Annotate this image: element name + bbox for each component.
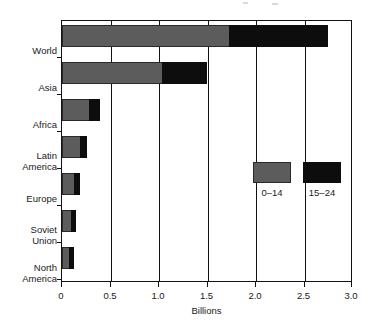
x-tick-mark <box>207 282 208 287</box>
bar-segment-young-world <box>62 25 229 47</box>
bar-segment-young-latin-america <box>62 136 80 158</box>
y-tick-mark <box>57 131 62 132</box>
x-tick-mark <box>255 282 256 287</box>
x-axis-title: Billions <box>61 305 352 316</box>
y-tick-label-asia: Asia <box>1 82 57 93</box>
bar-segment-older-world <box>229 25 328 47</box>
legend: 0–14 15–24 <box>253 162 341 208</box>
y-axis-labels: World Asia Africa Latin America Europe S… <box>0 20 57 282</box>
legend-entry-young: 0–14 <box>253 162 291 198</box>
x-tick-mark <box>351 282 352 287</box>
bar-segment-older-north-america <box>69 247 74 269</box>
legend-label-older: 15–24 <box>303 187 341 198</box>
x-tick-mark <box>158 282 159 287</box>
bar-segment-young-soviet-union <box>62 210 71 232</box>
y-tick-mark <box>57 57 62 58</box>
x-tick-mark <box>304 282 305 287</box>
bar-segment-older-asia <box>162 62 207 84</box>
gridline-0.5 <box>111 21 112 281</box>
scan-artifact <box>272 3 278 5</box>
y-tick-label-north-america: North America <box>1 262 57 284</box>
y-tick-mark <box>57 279 62 280</box>
plot-area: 0–14 15–24 <box>61 20 352 282</box>
bar-segment-older-africa <box>89 99 100 121</box>
x-tick-mark <box>110 282 111 287</box>
y-tick-label-soviet-union: Soviet Union <box>1 224 57 246</box>
y-tick-mark <box>57 94 62 95</box>
bar-segment-older-europe <box>74 173 80 195</box>
horizontal-stacked-bar-chart: World Asia Africa Latin America Europe S… <box>0 0 372 329</box>
bar-segment-young-europe <box>62 173 74 195</box>
x-tick-label-2.0: 2.0 <box>238 290 272 301</box>
bar-segment-young-north-america <box>62 247 69 269</box>
y-tick-mark <box>57 168 62 169</box>
bar-segment-older-latin-america <box>80 136 87 158</box>
gridline-1.5 <box>208 21 209 281</box>
x-tick-label-1.0: 1.0 <box>141 290 175 301</box>
gridline-1.0 <box>159 21 160 281</box>
y-tick-mark <box>57 242 62 243</box>
legend-swatch-young-icon <box>253 162 291 183</box>
x-tick-label-3.0: 3.0 <box>334 290 368 301</box>
gridline-2.0 <box>256 21 257 281</box>
x-tick-label-0.5: 0.5 <box>93 290 127 301</box>
x-tick-mark <box>61 282 62 287</box>
x-tick-label-2.5: 2.5 <box>287 290 321 301</box>
x-tick-label-1.5: 1.5 <box>190 290 224 301</box>
y-tick-label-africa: Africa <box>1 119 57 130</box>
y-tick-label-latin-america: Latin America <box>1 150 57 172</box>
bar-segment-young-asia <box>62 62 162 84</box>
y-tick-label-europe: Europe <box>1 193 57 204</box>
scan-artifact <box>243 2 248 4</box>
y-tick-label-world: World <box>1 45 57 56</box>
bar-segment-young-africa <box>62 99 89 121</box>
y-tick-mark <box>57 205 62 206</box>
x-tick-label-0: 0 <box>44 290 78 301</box>
gridline-2.5 <box>305 21 306 281</box>
bar-segment-older-soviet-union <box>71 210 76 232</box>
legend-entry-older: 15–24 <box>303 162 341 198</box>
legend-label-young: 0–14 <box>253 187 291 198</box>
legend-swatch-older-icon <box>303 162 341 183</box>
